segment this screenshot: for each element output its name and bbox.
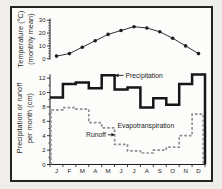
runoff-annotation-label: Runoff [86, 131, 106, 138]
evapotranspiration-annotation-label: Evapotranspiration [118, 122, 175, 130]
temperature-point [55, 54, 59, 58]
precip-y-tick-label: 2 [42, 147, 46, 153]
temperature-point [197, 52, 201, 56]
temperature-point [119, 29, 123, 33]
temperature-y-tick-label: 30 [39, 17, 46, 23]
temperature-y-tick-label: 10 [39, 43, 46, 49]
precip-y-tick-label: 6 [42, 118, 46, 124]
figure-frame: Temperature (°C) (monthly mean) Precipit… [10, 6, 213, 182]
temperature-y-tick-label: 0 [42, 56, 46, 62]
temperature-point [184, 44, 188, 48]
month-label: A [145, 167, 150, 174]
temperature-point [171, 36, 175, 40]
temperature-point [81, 45, 85, 49]
month-label: O [170, 167, 175, 174]
temperature-point [145, 26, 149, 30]
temperature-curve [57, 27, 199, 56]
precipitation-annotation-label: Precipitation [125, 72, 163, 80]
precip-y-tick-label: 4 [42, 133, 46, 139]
month-label: A [93, 167, 98, 174]
month-label: M [106, 167, 111, 174]
month-label: J [119, 167, 122, 174]
month-label: J [55, 167, 58, 174]
month-label: M [80, 167, 85, 174]
temperature-point [68, 52, 72, 56]
figure-scan-background: Temperature (°C) (monthly mean) Precipit… [0, 0, 222, 189]
precip-y-tick-label: 10 [39, 90, 46, 96]
temperature-point [158, 30, 162, 34]
month-label: F [67, 167, 71, 174]
temperature-point [93, 39, 97, 43]
temperature-point [132, 25, 136, 29]
temperature-point [106, 33, 110, 37]
month-label: N [183, 167, 187, 174]
month-label: D [196, 167, 201, 174]
precip-y-tick-label: 0 [42, 162, 46, 168]
precip-y-tick-label: 12 [39, 75, 46, 81]
temperature-y-tick-label: 20 [39, 30, 46, 36]
precip-y-tick-label: 8 [42, 104, 46, 110]
runoff-curve [51, 108, 203, 165]
month-label: S [158, 167, 162, 174]
chart-svg: 0102030024681012JFMAMJJASONDPrecipitatio… [12, 8, 211, 180]
month-label: J [132, 167, 135, 174]
